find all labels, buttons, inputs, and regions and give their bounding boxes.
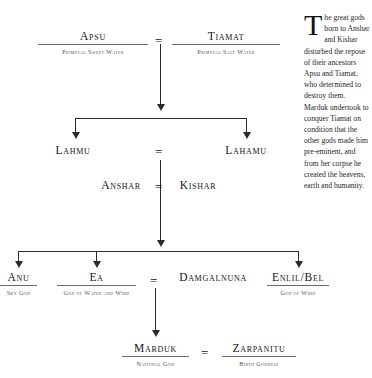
node-tiamat: Tiamat Primeval Salt Water — [172, 30, 280, 56]
node-tiamat-name: Tiamat — [172, 30, 280, 45]
node-zarpanitu-name: Zarpanitu — [222, 342, 296, 357]
arrowhead-gen4-ea — [93, 261, 101, 268]
node-ea-name: Ea — [57, 271, 136, 286]
genealogy-diagram: Apsu Primeval Sweet Water = Tiamat Prime… — [0, 0, 372, 378]
arrowhead-gen3-descent — [157, 240, 165, 247]
sidebar-text-block: T he great gods born to Anshar and Kisha… — [304, 12, 370, 191]
node-anshar-name: Anshar — [93, 179, 149, 193]
node-marduk: Marduk National God — [122, 342, 189, 368]
node-enlil-bel-subtitle: God of Wind — [267, 286, 329, 297]
node-lahmu: Lahmu — [42, 144, 104, 158]
node-lahamu-name: Lahamu — [213, 144, 279, 158]
node-kishar-name: Kishar — [172, 179, 224, 193]
connector-gen2-descent — [160, 160, 161, 245]
node-zarpanitu-subtitle: Birth Goddess — [222, 357, 296, 368]
drop-cap: T — [304, 12, 324, 37]
node-anu-name: Anu — [0, 271, 37, 286]
connector-gen1-descent — [160, 44, 161, 106]
node-ea: Ea God of Water and Wind — [57, 271, 136, 297]
node-damgalnuna: Damgalnuna — [166, 271, 260, 285]
node-anu-subtitle: Sky God — [0, 286, 37, 297]
union-anshar-kishar: = — [155, 180, 162, 193]
union-marduk-zarpanitu: = — [201, 346, 208, 359]
arrowhead-gen4-anu — [15, 261, 23, 268]
node-ea-subtitle: God of Water and Wind — [57, 286, 136, 297]
node-lahamu: Lahamu — [213, 144, 279, 158]
connector-bar-gen4 — [18, 251, 299, 252]
arrowhead-gen2-right — [243, 132, 251, 139]
node-enlil-bel-name: Enlil/Bel — [267, 271, 329, 286]
node-lahmu-name: Lahmu — [42, 144, 104, 158]
node-damgalnuna-name: Damgalnuna — [166, 271, 260, 285]
connector-gen4-descent — [155, 288, 156, 333]
node-zarpanitu: Zarpanitu Birth Goddess — [222, 342, 296, 368]
node-apsu: Apsu Primeval Sweet Water — [38, 30, 148, 56]
node-enlil-bel: Enlil/Bel God of Wind — [267, 271, 329, 297]
node-marduk-subtitle: National God — [122, 357, 189, 368]
arrowhead-gen1-descent — [157, 104, 165, 111]
node-kishar: Kishar — [172, 179, 224, 193]
connector-bar-gen2 — [75, 118, 247, 119]
node-marduk-name: Marduk — [122, 342, 189, 357]
union-lahmu-lahamu: = — [155, 145, 162, 158]
node-anshar: Anshar — [93, 179, 149, 193]
arrowhead-gen5-descent — [152, 330, 160, 337]
node-anu: Anu Sky God — [0, 271, 37, 297]
union-ea-damgalnuna: = — [150, 274, 157, 287]
arrowhead-gen2-left — [72, 132, 80, 139]
node-apsu-subtitle: Primeval Sweet Water — [38, 45, 148, 56]
arrowhead-gen4-enlil — [295, 261, 303, 268]
node-tiamat-subtitle: Primeval Salt Water — [172, 45, 280, 56]
node-apsu-name: Apsu — [38, 30, 148, 45]
